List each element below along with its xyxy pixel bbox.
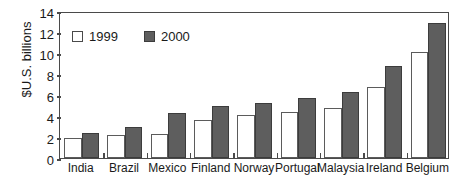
bar-1999 (367, 87, 385, 158)
bar-1999 (281, 112, 299, 158)
y-axis-tick-label: 14 (40, 7, 57, 20)
x-axis-label: Brazil (109, 161, 139, 175)
y-axis-tick-label: 12 (40, 28, 57, 41)
bar-group (407, 13, 450, 158)
bar-2000 (168, 113, 186, 158)
bar-group (233, 13, 276, 158)
x-axis-label: India (68, 161, 94, 175)
bar-2000 (125, 127, 143, 159)
x-axis-label: Malaysia (317, 161, 364, 175)
bar-2000 (428, 23, 446, 158)
x-axis-labels: IndiaBrazilMexicoFinlandNorwayPortugalMa… (59, 161, 449, 183)
bar-1999 (237, 115, 255, 158)
bar-group (363, 13, 406, 158)
x-axis-tick-mark (277, 153, 278, 158)
x-axis-tick-mark (407, 153, 408, 158)
x-axis-label: Finland (191, 161, 230, 175)
y-axis-title: $U.S. billions (19, 0, 34, 130)
bar-group (190, 13, 233, 158)
x-axis-tick-mark (103, 153, 104, 158)
y-axis-tick-label: 8 (47, 70, 57, 83)
x-axis-tick-mark (147, 153, 148, 158)
bar-group (277, 13, 320, 158)
x-axis-tick-mark (190, 153, 191, 158)
x-axis-tick-mark (363, 153, 364, 158)
bar-2000 (298, 98, 316, 158)
x-axis-label: Belgium (406, 161, 449, 175)
y-axis-tick-label: 0 (47, 154, 57, 167)
legend-entry-1999: 1999 (72, 30, 118, 43)
y-axis-tick-label: 6 (47, 91, 57, 104)
bar-1999 (411, 52, 429, 158)
chart-legend: 1999 2000 (72, 30, 190, 43)
y-axis-tick-label: 10 (40, 49, 57, 62)
bar-2000 (342, 92, 360, 158)
y-axis-tick-label: 4 (47, 112, 57, 125)
bar-2000 (82, 133, 100, 158)
bar-1999 (64, 138, 82, 158)
bar-chart-figure: $U.S. billions 14121086420 1999 2000 Ind… (0, 0, 463, 193)
bar-2000 (212, 106, 230, 159)
plot-area: 14121086420 1999 2000 (59, 12, 449, 159)
legend-swatch-2000-icon (144, 31, 155, 42)
legend-entry-2000: 2000 (144, 30, 190, 43)
legend-label-2000: 2000 (161, 30, 190, 43)
legend-label-1999: 1999 (89, 30, 118, 43)
bar-1999 (324, 108, 342, 158)
bar-1999 (107, 135, 125, 158)
x-axis-label: Ireland (366, 161, 403, 175)
x-axis-tick-mark (233, 153, 234, 158)
x-axis-label: Portugal (275, 161, 320, 175)
bar-2000 (255, 103, 273, 158)
x-axis-tick-mark (320, 153, 321, 158)
legend-swatch-1999-icon (72, 31, 83, 42)
bar-1999 (194, 120, 212, 158)
bar-group (320, 13, 363, 158)
bar-1999 (151, 134, 169, 158)
bar-2000 (385, 66, 403, 158)
x-axis-label: Mexico (148, 161, 186, 175)
x-axis-label: Norway (234, 161, 275, 175)
y-axis-tick-label: 2 (47, 133, 57, 146)
